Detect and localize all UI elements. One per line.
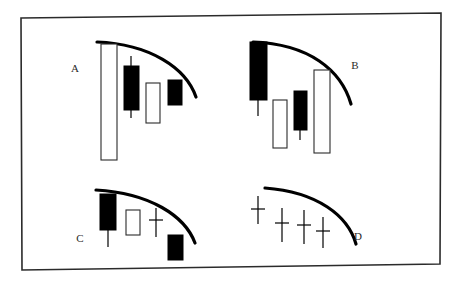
panel-label-d: D: [354, 230, 362, 242]
candle-body-hollow: [101, 44, 117, 160]
candle-body-filled: [124, 66, 139, 110]
candle-body-hollow: [126, 210, 140, 235]
figure-background: [0, 0, 461, 281]
candle-body-filled: [168, 235, 183, 260]
candle-body-filled: [168, 80, 182, 105]
panel-label-b: B: [351, 59, 358, 71]
panel-label-c: C: [76, 232, 83, 244]
panel-label-a: A: [71, 62, 79, 74]
candle-c-2: [126, 210, 140, 235]
candle-body-hollow: [146, 83, 160, 123]
candle-body-filled: [100, 194, 116, 230]
candle-a-3: [146, 83, 160, 123]
candlestick-figure: ABCD: [0, 0, 461, 281]
candle-b-4: [314, 70, 330, 153]
candle-body-hollow: [314, 70, 330, 153]
candle-b-2: [273, 100, 287, 148]
candle-a-1: [101, 44, 117, 160]
candle-body-filled: [250, 42, 267, 100]
candle-body-hollow: [273, 100, 287, 148]
candle-body-filled: [294, 91, 307, 130]
figure-canvas: ABCD: [0, 0, 461, 281]
candle-c-4: [168, 235, 183, 260]
candle-a-4: [168, 80, 182, 105]
